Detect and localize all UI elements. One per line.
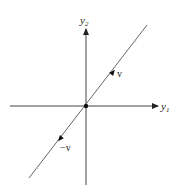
origin-dot — [84, 104, 88, 108]
eigenvector-line — [29, 25, 147, 178]
y1-axis-label: y1 — [160, 100, 169, 114]
y2-axis-label: y2 — [79, 14, 89, 28]
phase-portrait-diagram: y2 y1 v −v — [0, 0, 179, 191]
faint-marker-upper — [134, 40, 137, 43]
v-label: v — [117, 68, 122, 79]
faint-marker-lower — [36, 167, 39, 170]
neg-v-label: −v — [60, 142, 71, 153]
